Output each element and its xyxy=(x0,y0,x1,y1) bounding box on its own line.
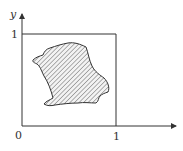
diagram-canvas: y 1 0 1 xyxy=(0,0,183,151)
y-axis-label: y xyxy=(9,8,17,21)
hatched-region xyxy=(33,43,109,106)
y-tick-label: 1 xyxy=(11,28,18,41)
origin-label: 0 xyxy=(15,129,22,142)
x-tick-label: 1 xyxy=(113,130,120,143)
